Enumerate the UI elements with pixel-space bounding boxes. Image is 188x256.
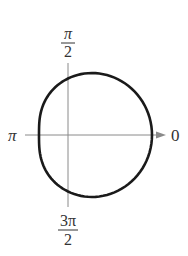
label-angle-0: 0 <box>171 126 180 145</box>
label-angle-pi: π <box>8 126 17 145</box>
label-pi-over-2-denominator: 2 <box>64 43 72 60</box>
label-3pi-over-2-denominator: 2 <box>64 231 72 248</box>
label-pi-over-2-numerator: π <box>64 25 73 42</box>
arrow-right-icon <box>156 132 166 139</box>
polar-graph: π 0 π 2 3π 2 <box>0 0 188 256</box>
label-3pi-over-2-numerator: 3π <box>60 212 76 229</box>
